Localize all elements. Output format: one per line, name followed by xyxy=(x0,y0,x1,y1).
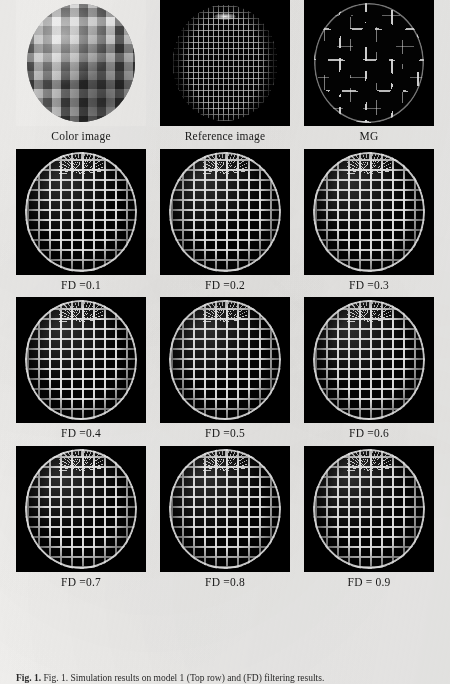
panel-fd-05-label: FD =0.5 xyxy=(205,423,245,446)
panel-fd-03-label: FD =0.3 xyxy=(349,275,389,298)
figure-caption-label: Fig. 1. xyxy=(16,673,41,683)
panel-fd-09-label: FD = 0.9 xyxy=(348,572,391,595)
panel-fd-07[interactable]: FD =0.7 xyxy=(16,446,146,595)
fd-sphere-graphic xyxy=(25,449,137,569)
panel-fd-01-label: FD =0.1 xyxy=(61,275,101,298)
sphere-rim xyxy=(169,449,281,569)
sphere-rim xyxy=(169,300,281,420)
panel-reference-image-label: Reference image xyxy=(185,126,266,149)
sphere-curvature-shading xyxy=(173,5,277,121)
panel-fd-04[interactable]: FD =0.4 xyxy=(16,297,146,446)
panel-fd-07-label: FD =0.7 xyxy=(61,572,101,595)
panel-fd-03[interactable]: FD =0.3 xyxy=(304,149,434,298)
panel-reference-image[interactable]: Reference image xyxy=(160,0,290,149)
figure-row: FD =0.7FD =0.8FD = 0.9 xyxy=(0,446,450,595)
sphere-rim xyxy=(313,152,425,272)
figure-panel-grid: Color imageReference imageMGFD =0.1FD =0… xyxy=(0,0,450,594)
contour-sphere-graphic xyxy=(314,3,424,123)
panel-color-image-label: Color image xyxy=(51,126,110,149)
fd-sphere-graphic xyxy=(25,300,137,420)
panel-color-image-image[interactable] xyxy=(16,0,146,126)
sphere-rim xyxy=(313,300,425,420)
panel-reference-image-image[interactable] xyxy=(160,0,290,126)
figure-caption-text: Fig. 1. Simulation results on model 1 (T… xyxy=(43,673,324,683)
color-sphere-graphic xyxy=(27,4,135,122)
fd-sphere-graphic xyxy=(169,449,281,569)
figure-row: FD =0.4FD =0.5FD =0.6 xyxy=(0,297,450,446)
fd-sphere-graphic xyxy=(25,152,137,272)
sphere-rim xyxy=(25,300,137,420)
panel-fd-06-image[interactable] xyxy=(304,297,434,423)
panel-fd-08-image[interactable] xyxy=(160,446,290,572)
sphere-pole-highlight xyxy=(214,13,236,20)
panel-fd-05-image[interactable] xyxy=(160,297,290,423)
figure-caption: Fig. 1. Fig. 1. Simulation results on mo… xyxy=(16,672,436,684)
sphere-rim xyxy=(25,152,137,272)
panel-fd-09-image[interactable] xyxy=(304,446,434,572)
fd-sphere-graphic xyxy=(169,300,281,420)
fd-sphere-graphic xyxy=(313,300,425,420)
fd-sphere-graphic xyxy=(169,152,281,272)
panel-fd-08[interactable]: FD =0.8 xyxy=(160,446,290,595)
panel-fd-02[interactable]: FD =0.2 xyxy=(160,149,290,298)
panel-mg[interactable]: MG xyxy=(304,0,434,149)
figure-row: Color imageReference imageMG xyxy=(0,0,450,149)
fd-sphere-graphic xyxy=(313,449,425,569)
panel-fd-05[interactable]: FD =0.5 xyxy=(160,297,290,446)
sphere-rim xyxy=(169,152,281,272)
panel-fd-09[interactable]: FD = 0.9 xyxy=(304,446,434,595)
sphere-rim xyxy=(25,449,137,569)
panel-fd-02-image[interactable] xyxy=(160,149,290,275)
panel-fd-08-label: FD =0.8 xyxy=(205,572,245,595)
panel-fd-07-image[interactable] xyxy=(16,446,146,572)
fd-sphere-graphic xyxy=(313,152,425,272)
panel-fd-03-image[interactable] xyxy=(304,149,434,275)
panel-fd-01-image[interactable] xyxy=(16,149,146,275)
wireframe-sphere-graphic xyxy=(173,5,277,121)
panel-color-image[interactable]: Color image xyxy=(16,0,146,149)
sphere-rim xyxy=(313,449,425,569)
panel-mg-image[interactable] xyxy=(304,0,434,126)
panel-fd-04-label: FD =0.4 xyxy=(61,423,101,446)
panel-fd-02-label: FD =0.2 xyxy=(205,275,245,298)
sphere-rim xyxy=(314,3,424,123)
figure-row: FD =0.1FD =0.2FD =0.3 xyxy=(0,149,450,298)
panel-fd-04-image[interactable] xyxy=(16,297,146,423)
sphere-shading xyxy=(27,4,135,122)
panel-fd-01[interactable]: FD =0.1 xyxy=(16,149,146,298)
panel-mg-label: MG xyxy=(360,126,379,149)
panel-fd-06[interactable]: FD =0.6 xyxy=(304,297,434,446)
panel-fd-06-label: FD =0.6 xyxy=(349,423,389,446)
